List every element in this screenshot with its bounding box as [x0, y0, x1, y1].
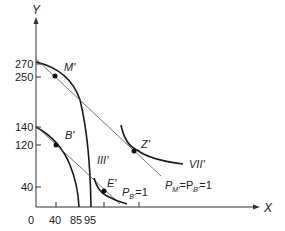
x-tick-95: 95: [84, 214, 96, 226]
x-tick-0: 0: [28, 214, 34, 226]
y-tick-250: 250: [15, 71, 33, 83]
point-e: [102, 189, 107, 194]
x-tick-40: 40: [49, 214, 61, 226]
y-axis-arrow-icon: [34, 17, 39, 24]
production-possibility-diagram: Y X 270 250 140 120 40 0 40 85 95 M' B': [0, 0, 285, 231]
x-axis-arrow-icon: [253, 205, 260, 210]
point-z: [132, 149, 137, 154]
y-tick-140: 140: [15, 121, 33, 133]
y-tick-270: 270: [15, 58, 33, 70]
indifference-curve-vii: [121, 125, 183, 164]
y-tick-40: 40: [21, 181, 33, 193]
outer-production-curve: [36, 62, 91, 207]
label-z: Z': [140, 138, 151, 150]
x-axis-label: X: [263, 201, 273, 215]
label-b: B': [65, 129, 75, 141]
y-axis-label: Y: [32, 3, 41, 17]
label-vii: VII': [189, 158, 205, 170]
price-label-high: PM'=PB'=1: [165, 179, 212, 193]
point-m: [53, 74, 58, 79]
axes: [34, 17, 261, 210]
label-m: M': [64, 61, 76, 73]
y-tick-120: 120: [15, 139, 33, 151]
x-tick-85: 85: [70, 214, 82, 226]
y-ticks: 270 250 140 120 40: [15, 58, 41, 193]
x-ticks: 0 40 85 95: [28, 202, 139, 226]
price-label-low: PB'=1: [122, 186, 148, 200]
label-iii: III': [97, 154, 109, 166]
label-e: E': [107, 177, 117, 189]
point-b: [54, 143, 59, 148]
